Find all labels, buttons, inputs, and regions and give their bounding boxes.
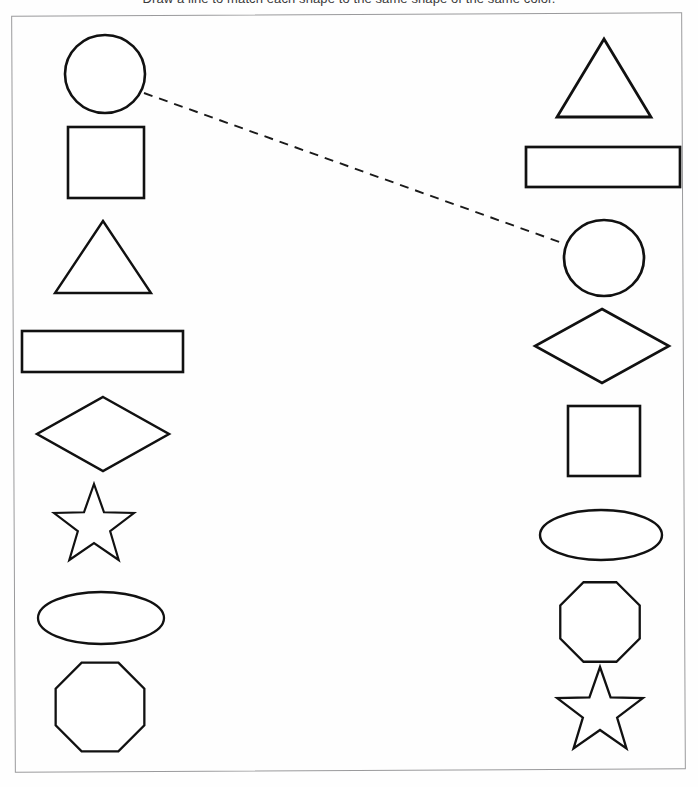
right-diamond[interactable]: Diamond (535, 309, 669, 383)
left-star[interactable]: Star (54, 484, 134, 560)
right-star[interactable]: Star (557, 667, 643, 748)
right-column: TriangleRectangleCircleDiamondSquareElli… (526, 39, 680, 748)
connection-lines: Circle to Circle (144, 93, 565, 244)
right-octagon[interactable]: Octagon (560, 582, 639, 661)
right-triangle[interactable]: Triangle (557, 39, 651, 117)
left-ellipse[interactable]: Ellipse (38, 592, 164, 644)
left-column: CircleSquareTriangleRectangleDiamondStar… (22, 35, 183, 751)
left-octagon[interactable]: Octagon (56, 663, 145, 752)
left-rectangle[interactable]: Rectangle (22, 331, 183, 372)
right-square[interactable]: Square (568, 406, 640, 476)
connection-circle-to-circle[interactable]: Circle to Circle (144, 93, 565, 244)
left-triangle[interactable]: Triangle (55, 221, 151, 293)
shape-canvas: CircleSquareTriangleRectangleDiamondStar… (0, 0, 698, 787)
left-diamond[interactable]: Diamond (37, 397, 169, 471)
right-circle[interactable]: Circle (564, 220, 644, 296)
left-circle[interactable]: Circle (65, 35, 145, 113)
worksheet-page: Draw a line to match each shape to the s… (0, 0, 698, 787)
left-square[interactable]: Square (68, 127, 144, 198)
right-rectangle[interactable]: Rectangle (526, 147, 680, 187)
right-ellipse[interactable]: Ellipse (540, 510, 662, 560)
shape-svg-layer: CircleSquareTriangleRectangleDiamondStar… (0, 0, 698, 787)
